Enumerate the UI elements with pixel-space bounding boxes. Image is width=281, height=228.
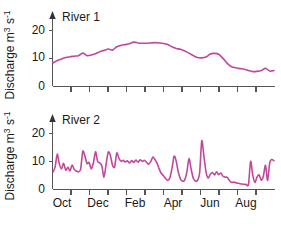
river1-ytick-20: 20 xyxy=(32,23,46,37)
river2-xtick-label-oct: Oct xyxy=(53,196,72,210)
river1-ytick-10: 10 xyxy=(32,50,46,64)
river1-ytick-0: 0 xyxy=(38,79,45,93)
river2-ytick-0: 0 xyxy=(38,182,45,196)
river1-y-axis-title: Discharge m3 s-1 xyxy=(2,10,17,99)
river2-ytick-10: 10 xyxy=(32,154,46,168)
river2-xtick-label-jun: Jun xyxy=(200,196,219,210)
river2-x-tickmarks xyxy=(71,190,256,195)
river2-xtick-label-aug: Aug xyxy=(235,196,256,210)
chart-panel-river2: Discharge m3 s-1 20 10 0 xyxy=(0,104,281,228)
river1-x-tickmarks xyxy=(71,87,256,92)
river1-y-axis-arrow-icon xyxy=(49,11,55,19)
river1-plot: Discharge m3 s-1 20 10 0 xyxy=(0,0,281,108)
river2-data-line xyxy=(53,141,274,186)
river2-plot: Discharge m3 s-1 20 10 0 xyxy=(0,104,281,228)
river2-xtick-label-apr: Apr xyxy=(164,196,183,210)
river2-xtick-label-feb: Feb xyxy=(125,196,146,210)
river2-xtick-label-dec: Dec xyxy=(87,196,108,210)
figure-container: Discharge m3 s-1 20 10 0 xyxy=(0,0,281,228)
river1-data-line xyxy=(53,42,274,72)
river1-title: River 1 xyxy=(62,10,100,24)
river2-y-axis-arrow-icon xyxy=(49,114,55,122)
river2-ytick-20: 20 xyxy=(32,126,46,140)
chart-panel-river1: Discharge m3 s-1 20 10 0 xyxy=(0,0,281,108)
river2-title: River 2 xyxy=(62,113,100,127)
river2-y-axis-title: Discharge m3 s-1 xyxy=(2,111,17,200)
